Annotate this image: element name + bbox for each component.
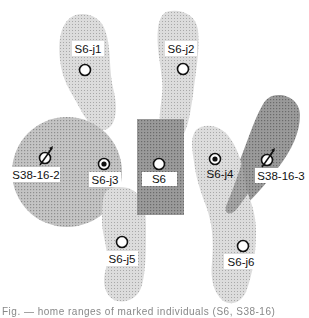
label-s6-j4: S6-j4 xyxy=(207,168,234,180)
label-s6-j3: S6-j3 xyxy=(92,174,119,186)
label-s6: S6 xyxy=(152,173,166,185)
label-s38-16-2: S38-16-2 xyxy=(12,169,59,181)
dotted-circle-icon xyxy=(210,154,221,165)
label-s38-16-3: S38-16-3 xyxy=(257,170,304,182)
label-s6-j2: S6-j2 xyxy=(168,43,195,55)
dotted-circle-icon xyxy=(99,159,110,170)
open-circle-icon xyxy=(238,241,249,252)
label-s6-j1: S6-j1 xyxy=(75,43,102,55)
open-circle-icon xyxy=(154,159,165,170)
open-circle-icon xyxy=(117,237,128,248)
figure-caption-truncated: Fig. — home ranges of marked individuals… xyxy=(2,306,307,318)
label-s6-j5: S6-j5 xyxy=(109,253,136,265)
label-s6-j6: S6-j6 xyxy=(228,256,255,268)
open-circle-icon xyxy=(80,65,91,76)
open-circle-icon xyxy=(178,64,189,75)
